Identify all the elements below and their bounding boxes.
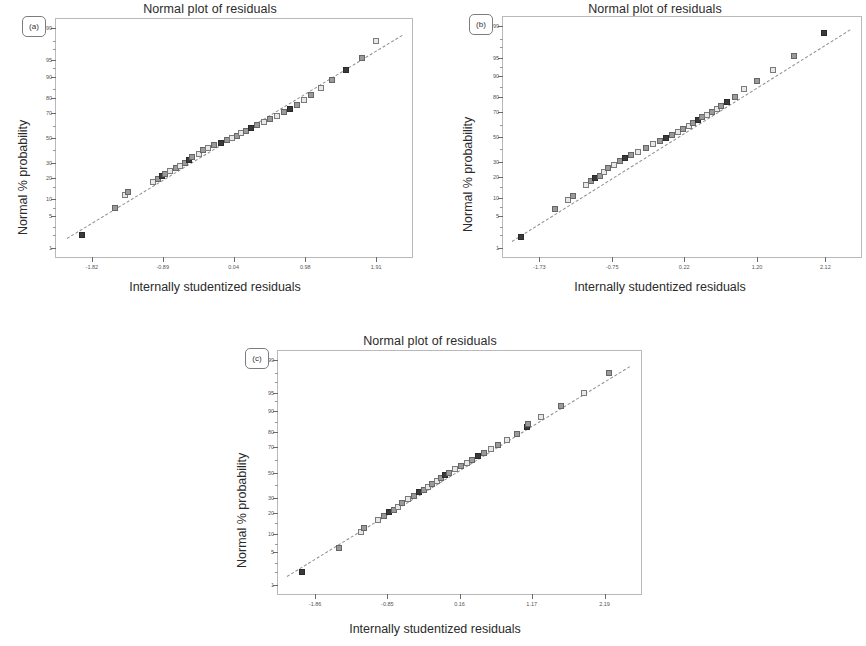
data-point-marker (770, 67, 776, 73)
data-point-marker (359, 55, 365, 61)
y-axis-tick-label: 1 (49, 245, 52, 251)
y-axis-tick-label: 70 (268, 444, 274, 450)
data-point-marker (248, 125, 254, 131)
y-axis-tick-label: 30 (493, 159, 499, 165)
data-point-marker (525, 421, 531, 427)
y-axis-minor-tick (275, 401, 278, 402)
y-axis-tick-label: 20 (493, 174, 499, 180)
panel-b-tag: (b) (469, 14, 493, 35)
y-axis-tick-label: 1 (271, 582, 274, 588)
y-axis-tick-label: 1 (496, 245, 499, 251)
data-point-marker (167, 168, 173, 174)
x-axis-tick-label: 0.98 (300, 264, 311, 270)
y-axis-minor-tick (53, 187, 56, 188)
y-axis-tick-label: 99 (493, 23, 499, 29)
x-axis-tick-label: 1.20 (752, 264, 763, 270)
y-axis-minor-tick (275, 422, 278, 423)
x-axis-tick-label: 2.12 (820, 264, 831, 270)
data-point-marker (495, 442, 501, 448)
x-axis-tick (825, 257, 826, 262)
y-axis-minor-tick (53, 150, 56, 151)
panel-a-plot-frame: 99959080705030201051-1.82-0.890.040.981.… (55, 18, 413, 258)
data-point-marker (267, 116, 273, 122)
data-point-marker (318, 85, 324, 91)
x-axis-tick (387, 594, 388, 599)
x-axis-tick-label: -0.89 (156, 264, 169, 270)
x-axis-tick-label: 1.91 (371, 264, 382, 270)
y-axis-minor-tick (500, 187, 503, 188)
data-point-marker (294, 102, 300, 108)
panel-a-plot-area: 99959080705030201051-1.82-0.890.040.981.… (56, 19, 412, 257)
data-point-marker (299, 569, 305, 575)
data-point-marker (635, 149, 641, 155)
data-point-marker (518, 234, 524, 240)
data-point-marker (791, 53, 797, 59)
x-axis-tick-label: -1.86 (309, 601, 322, 607)
data-point-marker (643, 145, 649, 151)
data-point-marker (650, 141, 656, 147)
x-axis-tick-label: 2.19 (599, 601, 610, 607)
data-point-marker (112, 205, 118, 211)
y-axis-minor-tick (275, 373, 278, 374)
y-axis-minor-tick (275, 460, 278, 461)
x-axis-tick (532, 594, 533, 599)
data-point-marker (606, 370, 612, 376)
data-point-marker (481, 450, 487, 456)
y-axis-tick-label: 10 (268, 531, 274, 537)
y-axis-tick-label: 95 (46, 57, 52, 63)
y-axis-minor-tick (275, 523, 278, 524)
x-axis-tick-label: 0.04 (228, 264, 239, 270)
y-axis-minor-tick (500, 227, 503, 228)
panel-b: Normal plot of residuals (b) Normal % pr… (445, 0, 866, 310)
x-axis-tick-label: -1.82 (86, 264, 99, 270)
y-axis-minor-tick (53, 208, 56, 209)
y-axis-minor-tick (53, 89, 56, 90)
y-axis-tick-label: 5 (271, 549, 274, 555)
y-axis-tick-label: 90 (46, 74, 52, 80)
data-point-marker (205, 145, 211, 151)
y-axis-minor-tick (275, 485, 278, 486)
data-point-marker (254, 122, 260, 128)
x-axis-tick-label: 0.16 (454, 601, 465, 607)
panel-c-y-axis-label: Normal % probability (235, 453, 249, 568)
data-point-marker (211, 142, 217, 148)
data-point-marker (488, 446, 494, 452)
panel-b-y-axis-label: Normal % probability (461, 117, 475, 232)
x-axis-tick (757, 257, 758, 262)
panel-a: Normal plot of residuals (a) Normal % pr… (0, 0, 430, 310)
data-point-marker (329, 77, 335, 83)
panel-b-x-axis-label: Internally studentized residuals (485, 280, 835, 294)
y-axis-minor-tick (53, 235, 56, 236)
x-axis-tick (460, 594, 461, 599)
y-axis-minor-tick (275, 382, 278, 383)
panel-c-tag: (c) (245, 348, 269, 369)
data-point-marker (570, 193, 576, 199)
y-axis-tick-label: 30 (46, 160, 52, 166)
y-axis-minor-tick (53, 227, 56, 228)
panel-c-x-axis-label: Internally studentized residuals (270, 622, 600, 636)
y-axis-minor-tick (53, 41, 56, 42)
panel-a-tag: (a) (22, 16, 46, 37)
y-axis-minor-tick (500, 47, 503, 48)
y-axis-minor-tick (500, 125, 503, 126)
data-point-marker (336, 545, 342, 551)
panel-b-plot-area: 99959080705030201051-1.73-0.750.221.202.… (503, 17, 861, 257)
panel-c-plot-frame: 99959080705030201051-1.86-0.850.161.172.… (277, 350, 642, 595)
y-axis-tick-label: 70 (493, 109, 499, 115)
y-axis-tick-label: 50 (493, 134, 499, 140)
y-axis-tick-label: 20 (46, 175, 52, 181)
data-point-marker (732, 94, 738, 100)
y-axis-minor-tick (53, 68, 56, 69)
panel-a-x-axis-label: Internally studentized residuals (40, 280, 390, 294)
panel-c: Normal plot of residuals (c) Normal % pr… (215, 330, 665, 646)
panel-c-plot-area: 99959080705030201051-1.86-0.850.161.172.… (278, 351, 641, 594)
y-axis-tick-label: 5 (49, 213, 52, 219)
y-axis-minor-tick (275, 544, 278, 545)
y-axis-minor-tick (500, 149, 503, 150)
data-point-marker (821, 30, 827, 36)
x-axis-tick-label: -0.85 (381, 601, 394, 607)
x-axis-tick (315, 594, 316, 599)
y-axis-minor-tick (500, 39, 503, 40)
data-point-marker (373, 38, 379, 44)
data-point-marker (308, 92, 314, 98)
